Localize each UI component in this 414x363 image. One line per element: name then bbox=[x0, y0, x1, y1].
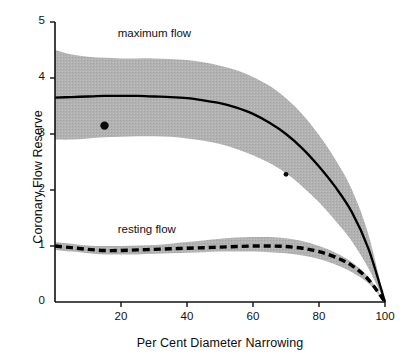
data-point-marker bbox=[284, 172, 289, 177]
series-annotation-label: maximum flow bbox=[118, 27, 191, 39]
x-tick-label: 80 bbox=[301, 310, 337, 322]
y-axis-title: Coronary Flow Reserve bbox=[31, 62, 45, 292]
y-tick-label: 3 bbox=[23, 126, 45, 138]
x-tick-label: 20 bbox=[103, 310, 139, 322]
x-tick-label: 100 bbox=[367, 310, 403, 322]
y-tick-label: 2 bbox=[23, 182, 45, 194]
confidence-bands bbox=[55, 50, 385, 302]
data-point-marker bbox=[100, 121, 108, 129]
x-tick-label: 40 bbox=[169, 310, 205, 322]
y-tick-label: 1 bbox=[23, 238, 45, 250]
x-axis-title: Per Cent Diameter Narrowing bbox=[55, 336, 385, 350]
y-tick-label: 4 bbox=[23, 70, 45, 82]
series-annotation-label: resting flow bbox=[118, 223, 176, 235]
y-tick-label: 5 bbox=[23, 14, 45, 26]
chart-figure: Coronary Flow Reserve Per Cent Diameter … bbox=[0, 0, 414, 363]
y-tick-label: 0 bbox=[23, 294, 45, 306]
chart-plot-area bbox=[0, 0, 414, 363]
x-tick-label: 60 bbox=[235, 310, 271, 322]
